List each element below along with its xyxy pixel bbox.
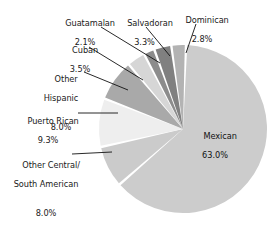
slice-label-other-central-line1: Other Central/ — [22, 160, 80, 170]
slice-label-dominican-name: Dominican — [185, 15, 228, 25]
slice-label-other-hispanic-line2: Hispanic — [34, 94, 88, 104]
slice-label-other-hispanic-line1: Other — [55, 74, 78, 84]
slice-label-guatamalan-name: Guatamalan — [65, 18, 115, 28]
slice-label-salvadoran-pct: 3.3% — [117, 38, 172, 48]
pie-chart: Guatamalan 2.1% Salvadoran 3.3% Dominica… — [0, 0, 276, 225]
slice-label-salvadoran: Salvadoran 3.3% — [117, 9, 172, 67]
slice-label-mexican: Mexican 63.0% — [184, 122, 246, 181]
slice-label-dominican-pct: 2.8% — [174, 35, 230, 45]
slice-label-dominican: Dominican 2.8% — [174, 6, 230, 64]
slice-label-other-central-pct: 8.0% — [4, 209, 88, 219]
slice-label-puerto-rican-name: Puerto Rican — [27, 116, 78, 126]
slice-label-puerto-rican-pct: 9.3% — [14, 136, 82, 146]
slice-label-mexican-name: Mexican — [203, 131, 236, 141]
slice-label-salvadoran-name: Salvadoran — [127, 18, 173, 28]
slice-label-other-central-line2: South American — [4, 180, 88, 190]
slice-label-cuban-name: Cuban — [72, 45, 98, 55]
slice-label-other-central-south-american: Other Central/ South American 8.0% — [4, 151, 88, 225]
slice-label-mexican-pct: 63.0% — [184, 151, 246, 161]
